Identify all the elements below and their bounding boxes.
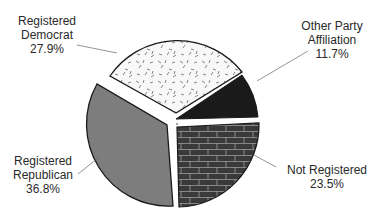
label-line: Affiliation — [296, 33, 368, 47]
label-registered-democrat: Registered Democrat 27.9% — [14, 14, 80, 56]
label-percent: 11.7% — [296, 47, 368, 61]
label-registered-republican: Registered Republican 36.8% — [8, 154, 78, 196]
label-line: Not Registered — [282, 163, 372, 177]
slice-not-registered — [177, 123, 259, 207]
label-not-registered: Not Registered 23.5% — [282, 163, 372, 191]
label-other-party-affiliation: Other Party Affiliation 11.7% — [296, 19, 368, 61]
label-line: Democrat — [14, 28, 80, 42]
label-line: Republican — [8, 168, 78, 182]
leader-line-republican — [78, 158, 98, 174]
label-percent: 27.9% — [14, 42, 80, 56]
label-percent: 36.8% — [8, 182, 78, 196]
center-dot — [176, 123, 178, 125]
label-line: Registered — [14, 14, 80, 28]
label-line: Registered — [8, 154, 78, 168]
label-line: Other Party — [296, 19, 368, 33]
leader-line-democrat — [77, 45, 117, 53]
leader-line-notreg — [254, 155, 276, 167]
label-percent: 23.5% — [282, 177, 372, 191]
